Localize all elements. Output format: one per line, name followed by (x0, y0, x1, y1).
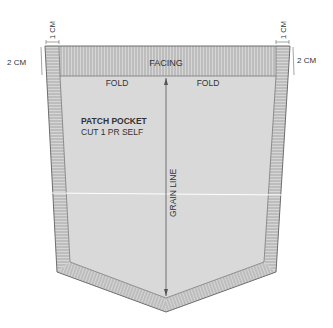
fold-label-right: FOLD (197, 78, 220, 88)
dim-line-top-right-height (293, 47, 294, 75)
patch-pocket-pattern: FACING FOLD FOLD PATCH POCKET CUT 1 PR S… (0, 0, 333, 328)
piece-name: PATCH POCKET (81, 116, 148, 126)
dim-top-right-height: 2 CM (297, 56, 316, 65)
facing-label: FACING (149, 58, 183, 68)
dim-top-right-width: 1 CM (279, 21, 288, 39)
grain-line-label: GRAIN LINE (168, 169, 178, 218)
fold-label-left: FOLD (106, 78, 129, 88)
dim-line-top-left-height (41, 47, 42, 75)
dim-top-left-width: 1 CM (48, 21, 57, 39)
dim-top-left-height: 2 CM (7, 58, 26, 67)
cut-instruction: CUT 1 PR SELF (81, 127, 143, 137)
